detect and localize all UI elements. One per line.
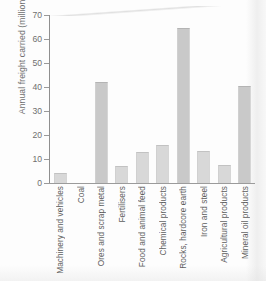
x-axis-tick-label: Agricultural products <box>220 186 229 263</box>
bar <box>238 86 251 183</box>
x-axis-tick-label: Chemical products <box>159 186 168 256</box>
bar <box>177 28 190 183</box>
bar-slot <box>214 15 235 183</box>
bar-slot <box>235 15 256 183</box>
bar-slot <box>71 15 92 183</box>
bar-slot <box>50 15 71 183</box>
bar-chart: Annual freight carried (million tonnes) … <box>0 0 266 281</box>
bar-slot <box>91 15 112 183</box>
bar <box>156 145 169 183</box>
x-axis-tick-label: Rocks, hardcore earth <box>179 186 188 269</box>
y-axis-tick-label: 20 <box>16 130 42 140</box>
bar <box>54 173 67 183</box>
bar <box>218 165 231 183</box>
y-axis-tick-label: 0 <box>16 178 42 188</box>
x-axis-tick-label: Iron and steel <box>200 186 209 237</box>
x-axis-tick-label: Fertilisers <box>118 186 127 223</box>
x-axis-line <box>49 183 255 184</box>
bar <box>115 166 128 183</box>
y-axis-tick-label: 70 <box>16 10 42 20</box>
y-axis-tick-label: 40 <box>16 82 42 92</box>
bar <box>136 152 149 183</box>
bar <box>95 82 108 183</box>
x-axis-labels: Machinery and vehiclesCoalOres and scrap… <box>50 186 255 281</box>
y-axis-tick-label: 50 <box>16 58 42 68</box>
y-axis-tick-label: 30 <box>16 106 42 116</box>
y-axis-tick-label: 60 <box>16 34 42 44</box>
y-axis-tick-label: 10 <box>16 154 42 164</box>
x-axis-tick-label: Coal <box>77 186 86 203</box>
bar-slot <box>173 15 194 183</box>
bar <box>197 151 210 183</box>
plot-area <box>50 15 255 183</box>
x-axis-tick-label: Ores and scrap metal <box>97 186 106 266</box>
bar-slot <box>194 15 215 183</box>
bar-slot <box>132 15 153 183</box>
x-axis-tick-label: Food and animal feed <box>138 186 147 267</box>
bar-slot <box>112 15 133 183</box>
bar-slot <box>153 15 174 183</box>
x-axis-tick-label: Machinery and vehicles <box>56 186 65 274</box>
x-axis-tick-label: Mineral oil products <box>241 186 250 259</box>
